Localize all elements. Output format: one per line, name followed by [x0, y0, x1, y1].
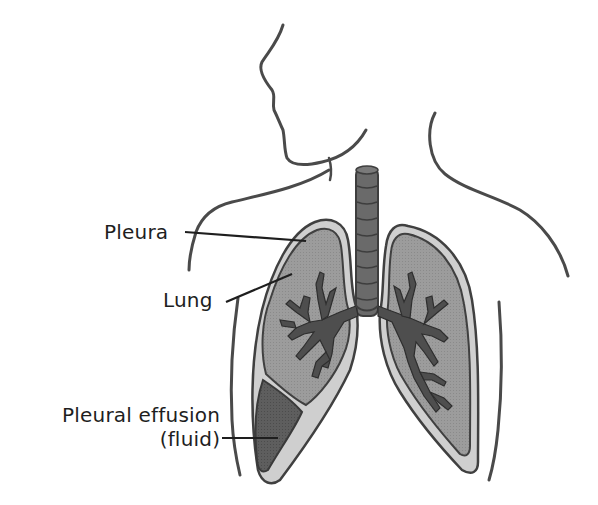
label-effusion-line2: (fluid): [62, 427, 220, 451]
left-lung: [252, 220, 358, 483]
label-lung: Lung: [163, 288, 213, 312]
pleura-leader-line: [185, 232, 306, 241]
face-profile: [261, 25, 366, 165]
label-effusion-line1: Pleural effusion: [62, 403, 220, 427]
trachea: [356, 166, 378, 316]
left-torso: [231, 298, 240, 475]
right-lung: [378, 225, 478, 473]
label-pleural-effusion: Pleural effusion (fluid): [62, 403, 220, 451]
label-pleura: Pleura: [104, 220, 168, 244]
right-torso: [489, 302, 501, 480]
